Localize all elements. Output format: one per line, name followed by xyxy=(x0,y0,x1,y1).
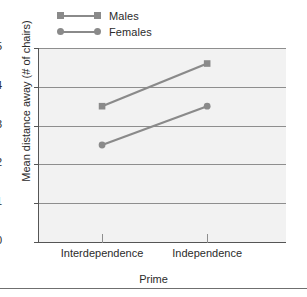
x-axis-tick-mark xyxy=(207,234,208,243)
legend-key-females xyxy=(57,25,101,39)
round-marker-icon xyxy=(57,28,64,35)
legend-line-icon xyxy=(59,31,99,33)
chart-legend: Males Females xyxy=(57,8,207,40)
y-axis-tick-label: 1 xyxy=(0,195,2,207)
y-axis-tick-label: 0 xyxy=(0,234,2,246)
x-axis-title: Prime xyxy=(0,273,307,285)
y-axis-tick-mark xyxy=(34,48,39,49)
gridline xyxy=(39,164,286,165)
legend-item-males[interactable]: Males xyxy=(57,8,207,24)
y-axis-tick-mark xyxy=(34,87,39,88)
y-axis-tick-label: 4 xyxy=(0,79,2,91)
square-marker-icon xyxy=(57,12,64,19)
y-axis-tick-label: 2 xyxy=(0,156,2,168)
chart-figure: Males Females Mean distance away (# of c… xyxy=(0,0,307,297)
y-axis-tick-mark xyxy=(34,242,39,243)
gridline xyxy=(39,48,286,49)
y-axis-title: Mean distance away (# of chairs) xyxy=(20,1,32,201)
y-axis-tick-mark xyxy=(34,126,39,127)
x-axis-tick-label: Interdependence xyxy=(61,247,144,259)
y-axis-tick-label: 3 xyxy=(0,118,2,130)
y-axis-line xyxy=(38,48,39,243)
square-marker-icon xyxy=(94,12,101,19)
gridline xyxy=(39,87,286,88)
gridline xyxy=(39,126,286,127)
gridline xyxy=(39,203,286,204)
footer-divider xyxy=(0,288,307,289)
round-marker-icon xyxy=(94,28,101,35)
y-axis-tick-label: 5 xyxy=(0,40,2,52)
y-axis-tick-mark xyxy=(34,203,39,204)
x-axis-line xyxy=(38,242,286,243)
legend-key-males xyxy=(57,9,101,23)
plot-area xyxy=(39,48,286,242)
x-axis-tick-label: Independence xyxy=(172,247,242,259)
y-axis-tick-mark xyxy=(34,164,39,165)
legend-label-females: Females xyxy=(101,26,152,38)
legend-label-males: Males xyxy=(101,10,139,22)
legend-item-females[interactable]: Females xyxy=(57,24,207,40)
x-axis-tick-mark xyxy=(102,234,103,243)
legend-line-icon xyxy=(59,15,99,17)
